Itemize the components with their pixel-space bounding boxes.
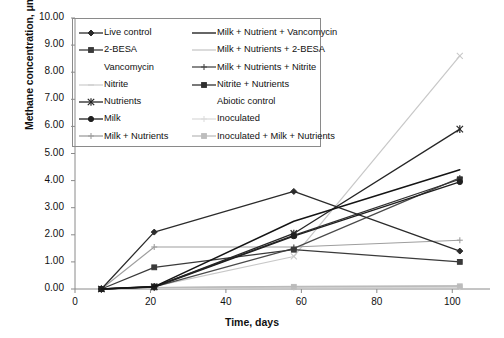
data-point-marker [202,134,207,139]
legend-marker-plus-icon [191,60,217,74]
legend-item-label: Milk + Nutrients + 2-BESA [217,45,325,54]
data-point-marker [88,30,94,36]
legend-item-label: Milk + Nutrients [104,132,168,141]
data-point-marker [291,234,296,239]
legend-swatch [191,60,217,74]
legend-marker-plus-icon [191,112,217,126]
x-axis-tick-label: 20 [130,296,170,307]
data-point-marker [152,265,157,270]
legend-item-label: 2-BESA [104,45,137,54]
legend-item[interactable]: Vancomycin [78,59,194,76]
legend-swatch [191,112,217,126]
legend-column-left: Live control2-BESAVancomycinNitriteNutri… [78,24,194,145]
legend-marker-circle-icon [78,112,104,126]
data-point-marker [291,188,297,194]
legend-marker-diamond-icon [78,26,104,40]
legend-swatch [78,60,104,74]
legend-swatch [78,112,104,126]
legend-marker-line-icon [191,43,217,57]
data-point-marker [89,48,94,53]
legend-marker-plus-icon [78,129,104,143]
data-point-marker [457,179,462,184]
legend-marker-square-icon [191,78,217,92]
legend-marker-square-icon [78,43,104,57]
legend-swatch [78,26,104,40]
legend-item[interactable]: Milk + Nutrients [78,128,194,145]
data-point-marker [457,260,462,265]
legend-swatch [78,95,104,109]
legend-swatch [78,43,104,57]
legend-marker-star-icon [78,95,104,109]
legend-item[interactable]: Milk + Nutrients + Nitrite [191,59,319,76]
chart-figure: Methane concentration, μmol/kg Time, day… [0,0,504,338]
legend-item-label: Milk + Nutrient + Vancomycin [217,28,337,37]
legend-item-label: Inoculated [217,114,260,123]
legend-swatch [78,78,104,92]
legend-item[interactable]: Milk + Nutrient + Vancomycin [191,24,319,41]
data-point-marker [457,284,462,289]
legend-swatch [191,129,217,143]
legend-marker-line-icon [78,60,104,74]
legend-item[interactable]: Nitrite + Nutrients [191,76,319,93]
data-point-marker [291,284,296,289]
legend-column-right: Milk + Nutrient + VancomycinMilk + Nutri… [191,24,319,145]
legend-item[interactable]: Inoculated + Milk + Nutrients [191,128,319,145]
legend-item-label: Inoculated + Milk + Nutrients [217,132,335,141]
legend-item-label: Nitrite [104,80,128,89]
legend-marker-line-icon [191,95,217,109]
legend-item-label: Abiotic control [217,97,275,106]
x-axis-tick-label: 60 [281,296,321,307]
legend-item[interactable]: Nutrients [78,93,194,110]
legend-swatch [191,95,217,109]
legend-item-label: Vancomycin [104,63,154,72]
legend-item[interactable]: Inoculated [191,110,319,127]
legend-item[interactable]: Milk [78,110,194,127]
legend-item-label: Milk [104,114,121,123]
legend-item-label: Nitrite + Nutrients [217,80,289,89]
legend-swatch [191,78,217,92]
x-axis-tick-label: 100 [432,296,472,307]
legend-item[interactable]: Milk + Nutrients + 2-BESA [191,41,319,58]
legend-marker-line-icon [191,26,217,40]
legend-item-label: Milk + Nutrients + Nitrite [217,63,316,72]
data-point-marker [457,248,463,254]
data-point-marker [88,117,93,122]
x-axis-tick-label: 80 [357,296,397,307]
chart-legend: Live control2-BESAVancomycinNitriteNutri… [72,18,321,147]
legend-item[interactable]: Live control [78,24,194,41]
legend-item[interactable]: Abiotic control [191,93,319,110]
legend-item[interactable]: 2-BESA [78,41,194,58]
legend-item-label: Nutrients [104,97,141,106]
x-axis-tick-label: 40 [206,296,246,307]
legend-swatch [191,26,217,40]
legend-marker-dash-icon [78,78,104,92]
legend-marker-square-icon [191,129,217,143]
x-axis-tick-label: 0 [55,296,95,307]
data-point-marker [291,247,296,252]
data-point-marker [202,82,207,87]
legend-item[interactable]: Nitrite [78,76,194,93]
legend-item-label: Live control [104,28,152,37]
legend-swatch [78,129,104,143]
legend-swatch [191,43,217,57]
